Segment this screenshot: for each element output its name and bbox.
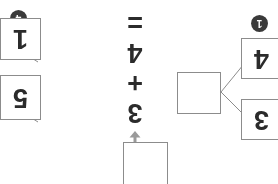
- option-box-4[interactable]: 4: [241, 38, 278, 79]
- equation-equals-sign: =: [127, 7, 143, 37]
- decompose-box[interactable]: [177, 72, 221, 114]
- option-box-5[interactable]: 5: [0, 75, 41, 120]
- option-box-1-value: 1: [13, 26, 28, 53]
- option-box-3-value: 3: [254, 106, 269, 133]
- step-badge-1: 1: [251, 15, 268, 32]
- option-box-1[interactable]: 1: [0, 18, 41, 60]
- equation-group: 3 + 4 =: [118, 7, 152, 147]
- option-box-5-value: 5: [13, 84, 28, 111]
- rotated-content-layer: 4 1 3 + 4 = 3 4: [0, 0, 278, 184]
- equation-first-addend: 3: [127, 98, 142, 128]
- step-badge-1-label: 1: [257, 19, 263, 29]
- answer-box[interactable]: [123, 142, 168, 184]
- worksheet-canvas: 4 1 3 + 4 = 3 4: [0, 0, 278, 184]
- option-box-3[interactable]: 3: [241, 99, 278, 140]
- equation-second-addend: 4: [127, 37, 142, 67]
- option-box-4-value: 4: [254, 45, 269, 72]
- equation-operator: +: [127, 68, 143, 98]
